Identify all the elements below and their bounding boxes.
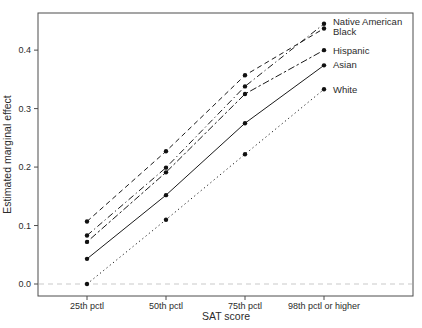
data-point-native-american (243, 84, 247, 88)
y-tick-label: 0.1 (18, 221, 31, 231)
series-label-hispanic: Hispanic (333, 45, 370, 56)
series-label-native-american: Native American (333, 16, 402, 27)
data-point-black (164, 149, 168, 153)
data-point-black (85, 219, 89, 223)
y-axis-title: Estimated marginal effect (1, 95, 13, 213)
data-point-asian (322, 63, 326, 67)
y-tick-label: 0.2 (18, 162, 31, 172)
series-label-black: Black (333, 26, 356, 37)
series-line-white (87, 89, 324, 284)
series-label-white: White (333, 84, 357, 95)
data-point-black (243, 73, 247, 77)
data-point-asian (164, 193, 168, 197)
data-point-native-american (322, 22, 326, 26)
series-points (85, 22, 326, 287)
series-line-asian (87, 65, 324, 259)
data-point-native-american (164, 165, 168, 169)
data-point-asian (85, 257, 89, 261)
data-point-white (164, 217, 168, 221)
data-point-black (322, 26, 326, 30)
x-tick-label: 50th pctl (149, 301, 183, 311)
data-point-hispanic (85, 240, 89, 244)
line-chart: 0.00.10.20.30.4 25th pctl50th pctl75th p… (0, 0, 422, 328)
series-label-asian: Asian (333, 59, 357, 70)
chart-figure: 0.00.10.20.30.4 25th pctl50th pctl75th p… (0, 0, 422, 328)
series-line-native-american (87, 24, 324, 236)
data-point-native-american (85, 233, 89, 237)
x-axis-title: SAT score (202, 310, 250, 322)
y-tick-label: 0.4 (18, 45, 31, 55)
x-axis: 25th pctl50th pctl75th pctl98th pctl or … (70, 296, 360, 311)
data-point-hispanic (322, 48, 326, 52)
series-line-black (87, 28, 324, 221)
data-point-hispanic (243, 92, 247, 96)
data-point-white (243, 152, 247, 156)
series-lines (87, 24, 324, 284)
y-tick-label: 0.0 (18, 279, 31, 289)
y-tick-label: 0.3 (18, 104, 31, 114)
x-tick-label: 98th pctl or higher (288, 301, 360, 311)
data-point-white (322, 87, 326, 91)
series-labels: BlackNative AmericanHispanicAsianWhite (333, 16, 402, 94)
data-point-asian (243, 121, 247, 125)
x-tick-label: 25th pctl (70, 301, 104, 311)
series-line-hispanic (87, 50, 324, 242)
data-point-hispanic (164, 170, 168, 174)
data-point-white (85, 282, 89, 286)
y-axis: 0.00.10.20.30.4 (18, 45, 38, 289)
